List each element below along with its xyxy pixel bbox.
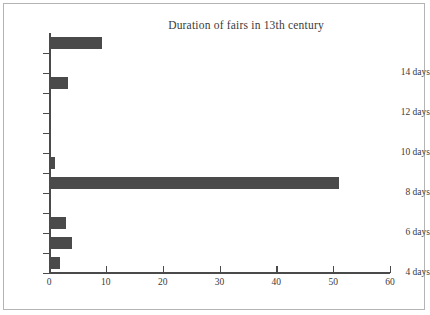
bar <box>49 157 55 169</box>
y-axis-tick <box>43 233 50 234</box>
y-axis-label: 8 days <box>388 187 430 197</box>
y-axis-label: 12 days <box>388 107 430 117</box>
y-axis-tick <box>43 253 50 254</box>
y-axis-tick <box>43 93 50 94</box>
bar <box>49 257 60 269</box>
x-axis-label: 20 <box>148 277 178 287</box>
x-axis-label: 10 <box>91 277 121 287</box>
x-axis-label: 50 <box>318 277 348 287</box>
x-axis-label: 60 <box>375 277 405 287</box>
bar <box>49 37 102 49</box>
x-axis-label: 30 <box>205 277 235 287</box>
y-axis-tick <box>43 173 50 174</box>
y-axis-tick <box>43 133 50 134</box>
x-axis-label: 40 <box>261 277 291 287</box>
chart-page: Duration of fairs in 13th century 4 days… <box>0 0 430 315</box>
y-axis-label: 10 days <box>388 147 430 157</box>
x-axis-tick <box>333 266 334 273</box>
x-axis-label: 0 <box>34 277 64 287</box>
x-axis-tick <box>390 266 391 273</box>
bar <box>49 77 68 89</box>
y-axis-tick <box>43 153 50 154</box>
y-axis-label: 4 days <box>388 267 430 277</box>
x-axis-tick <box>276 266 277 273</box>
y-axis-tick <box>43 113 50 114</box>
x-axis-tick <box>106 266 107 273</box>
bar <box>49 237 72 249</box>
y-axis-tick <box>43 73 50 74</box>
x-axis-tick <box>163 266 164 273</box>
y-axis-label: 14 days <box>388 67 430 77</box>
bar <box>49 217 66 229</box>
y-axis-tick <box>43 213 50 214</box>
chart-title: Duration of fairs in 13th century <box>0 19 430 31</box>
x-axis-tick <box>49 266 50 273</box>
bar <box>49 177 339 189</box>
y-axis-label: 6 days <box>388 227 430 237</box>
y-axis-tick <box>43 193 50 194</box>
y-axis-tick <box>43 53 50 54</box>
y-axis-tick <box>43 273 50 274</box>
x-axis-tick <box>220 266 221 273</box>
